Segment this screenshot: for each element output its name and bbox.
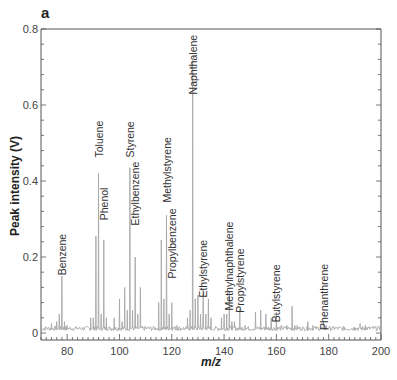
peak-label: Ethylstyrene <box>197 240 209 298</box>
peak-label: Methylstyrene <box>161 137 173 203</box>
x-tick-label: 200 <box>372 345 390 357</box>
spectrum-line <box>41 59 381 330</box>
x-tick-label: 100 <box>110 345 128 357</box>
y-tick-label: 0 <box>32 327 38 339</box>
y-tick-label: 0.6 <box>23 99 38 111</box>
peak-label: Phenanthrene <box>318 264 330 330</box>
chart-svg: a 8010012014016018020000.20.40.60.8 Benz… <box>0 0 397 380</box>
y-axis-label: Peak intensity (V) <box>8 136 22 236</box>
y-tick-label: 0.2 <box>23 251 38 263</box>
peak-label: Toluene <box>93 121 105 158</box>
peak-label: Benzene <box>56 234 68 276</box>
peak-label: Ethylbenzene <box>129 162 141 226</box>
peak-label: Propylbenzene <box>166 208 178 278</box>
panel-label: a <box>41 4 50 21</box>
peak-label: Phenol <box>98 188 110 221</box>
axes: 8010012014016018020000.20.40.60.8 <box>23 23 390 357</box>
mass-spectrum-chart: a 8010012014016018020000.20.40.60.8 Benz… <box>0 0 397 380</box>
x-tick-label: 80 <box>61 345 73 357</box>
peak-label: Propylstyrene <box>234 248 246 312</box>
peak-label: Naphthalene <box>187 35 199 95</box>
spectrum-path <box>41 59 381 330</box>
peak-label: Styrene <box>124 121 136 157</box>
plot-frame <box>41 29 381 340</box>
y-tick-label: 0.4 <box>23 175 38 187</box>
y-tick-label: 0.8 <box>23 23 38 35</box>
x-tick-label: 120 <box>163 345 181 357</box>
x-tick-label: 180 <box>320 345 338 357</box>
x-tick-label: 160 <box>267 345 285 357</box>
peak-label: Butylstyrene <box>270 264 282 322</box>
x-axis-label: m/z <box>201 355 221 369</box>
